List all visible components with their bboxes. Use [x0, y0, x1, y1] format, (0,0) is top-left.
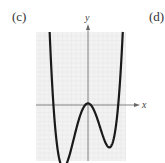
x-axis-arrow-icon	[134, 103, 140, 107]
y-axis-arrow-icon	[86, 24, 90, 30]
function-graph: x y	[0, 0, 165, 163]
y-axis-label: y	[84, 12, 90, 23]
x-axis-label: x	[141, 99, 147, 110]
